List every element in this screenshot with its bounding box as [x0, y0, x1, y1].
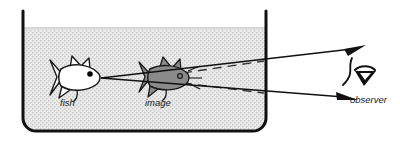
label-observer: observer — [350, 94, 388, 105]
upper-arrowhead — [344, 45, 366, 56]
observer-face-profile-icon — [343, 58, 352, 85]
ray-diagram-figure: fish image observer — [0, 0, 405, 143]
label-image: image — [145, 97, 171, 108]
real-fish-body — [59, 65, 100, 90]
observer-figure — [343, 58, 376, 86]
image-fish-eye — [178, 74, 183, 79]
diagram-canvas: fish image observer — [0, 0, 405, 143]
label-fish: fish — [60, 97, 75, 108]
observer-brow-icon — [355, 66, 375, 70]
real-fish-eye — [87, 71, 93, 77]
